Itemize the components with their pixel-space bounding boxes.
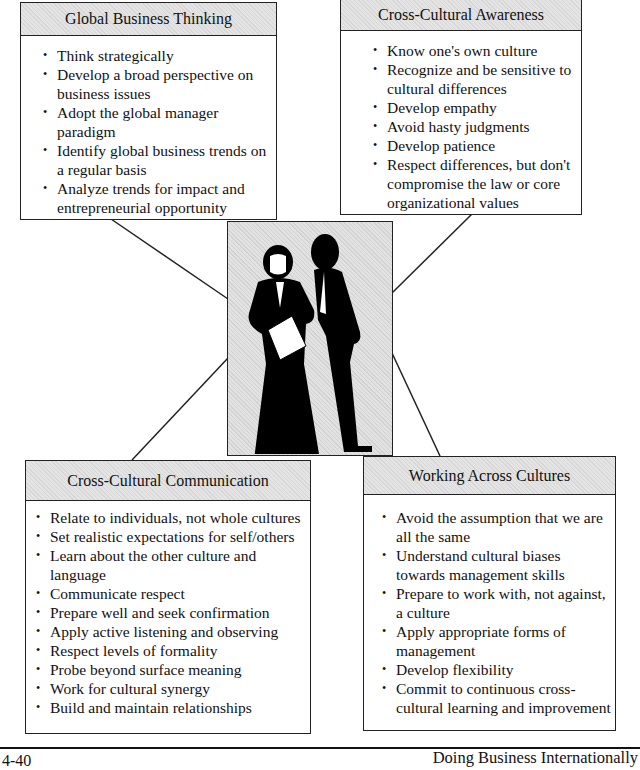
bullet-list: Relate to individuals, not whole culture…: [26, 501, 310, 717]
list-item: Communicate respect: [34, 584, 306, 603]
list-item: Learn about the other culture and langua…: [34, 546, 306, 584]
book-title: Doing Business Internationally: [433, 748, 638, 768]
list-item: Build and maintain relationships: [34, 698, 306, 717]
list-item: Avoid hasty judgments: [371, 117, 577, 136]
list-item: Apply appropriate forms of management: [380, 622, 611, 660]
list-item: Respect differences, but don't compromis…: [371, 155, 577, 212]
list-item: Identify global business trends on a reg…: [41, 141, 272, 179]
list-item: Prepare well and seek confirmation: [34, 603, 306, 622]
list-item: Develop empathy: [371, 98, 577, 117]
list-item: Know one's own culture: [371, 41, 577, 60]
box-title: Working Across Cultures: [364, 457, 615, 495]
list-item: Set realistic expectations for self/othe…: [34, 527, 306, 546]
working-across-cultures-box: Working Across Cultures Avoid the assump…: [363, 456, 616, 731]
list-item: Recognize and be sensitive to cultural d…: [371, 60, 577, 98]
box-title: Cross-Cultural Awareness: [341, 0, 581, 31]
cross-cultural-awareness-box: Cross-Cultural Awareness Know one's own …: [340, 0, 582, 215]
list-item: Respect levels of formality: [34, 641, 306, 660]
bullet-list: Think strategically Develop a broad pers…: [21, 36, 276, 217]
list-item: Develop a broad perspective on business …: [41, 65, 272, 103]
list-item: Prepare to work with, not against, a cul…: [380, 584, 611, 622]
box-title: Cross-Cultural Communication: [26, 461, 310, 501]
list-item: Adopt the global manager paradigm: [41, 103, 272, 141]
list-item: Analyze trends for impact and entreprene…: [41, 179, 272, 217]
list-item: Develop flexibility: [380, 660, 611, 679]
list-item: Understand cultural biases towards manag…: [380, 546, 611, 584]
list-item: Develop patience: [371, 136, 577, 155]
page-number: 4-40: [2, 752, 31, 770]
list-item: Commit to continuous cross-cultural lear…: [380, 679, 611, 717]
cross-cultural-communication-box: Cross-Cultural Communication Relate to i…: [25, 460, 311, 734]
list-item: Think strategically: [41, 46, 272, 65]
list-item: Avoid the assumption that we are all the…: [380, 508, 611, 546]
global-business-thinking-box: Global Business Thinking Think strategic…: [20, 2, 277, 220]
list-item: Work for cultural synergy: [34, 679, 306, 698]
bullet-list: Know one's own culture Recognize and be …: [341, 31, 581, 212]
list-item: Relate to individuals, not whole culture…: [34, 508, 306, 527]
list-item: Apply active listening and observing: [34, 622, 306, 641]
box-title: Global Business Thinking: [21, 3, 276, 36]
two-businesspeople-silhouette-icon: [227, 221, 393, 456]
list-item: Probe beyond surface meaning: [34, 660, 306, 679]
bullet-list: Avoid the assumption that we are all the…: [364, 495, 615, 717]
